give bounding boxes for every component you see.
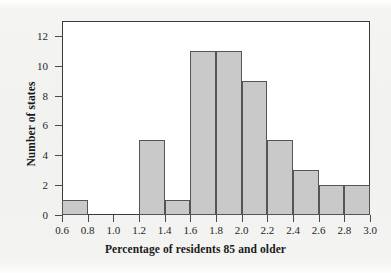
x-axis-tick	[190, 215, 191, 222]
x-axis-tick	[267, 215, 268, 222]
x-axis-tick	[62, 215, 63, 222]
x-axis-tick	[216, 215, 217, 222]
histogram-bar	[267, 140, 293, 215]
x-axis-tick	[139, 215, 140, 222]
histogram-bar	[216, 51, 242, 215]
histogram-figure: Number of states 024681012 0.60.81.01.21…	[0, 0, 391, 273]
plot-area	[62, 21, 370, 215]
y-axis-tick	[55, 125, 63, 126]
x-axis-tick-label: 3.0	[355, 224, 385, 236]
x-axis-title: Percentage of residents 85 and older	[0, 243, 391, 255]
y-axis-tick-label: 2	[8, 179, 48, 191]
x-axis-tick	[88, 215, 89, 222]
y-axis-tick-label: 0	[8, 209, 48, 221]
histogram-bar	[242, 81, 268, 215]
histogram-bar	[319, 185, 345, 215]
x-axis-tick	[370, 215, 371, 222]
y-axis-tick	[55, 155, 63, 156]
y-axis-tick	[55, 66, 63, 67]
x-axis-tick	[165, 215, 166, 222]
y-axis-tick-label: 6	[8, 119, 48, 131]
x-axis-tick	[113, 215, 114, 222]
x-axis-tick	[344, 215, 345, 222]
x-axis-tick	[319, 215, 320, 222]
y-axis-tick-label: 8	[8, 90, 48, 102]
y-axis-tick-label: 10	[8, 60, 48, 72]
x-axis-tick	[293, 215, 294, 222]
x-axis-tick	[242, 215, 243, 222]
histogram-bar	[293, 170, 319, 215]
y-axis-tick-label: 12	[8, 30, 48, 42]
histogram-bar	[165, 200, 191, 215]
y-axis-tick	[55, 36, 63, 37]
y-axis-tick	[55, 185, 63, 186]
y-axis-tick-labels: 024681012	[0, 0, 52, 273]
histogram-bar	[62, 200, 88, 215]
histogram-bar	[344, 185, 370, 215]
y-axis-tick-label: 4	[8, 149, 48, 161]
histogram-bar	[190, 51, 216, 215]
y-axis-tick	[55, 96, 63, 97]
histogram-bar	[139, 140, 165, 215]
